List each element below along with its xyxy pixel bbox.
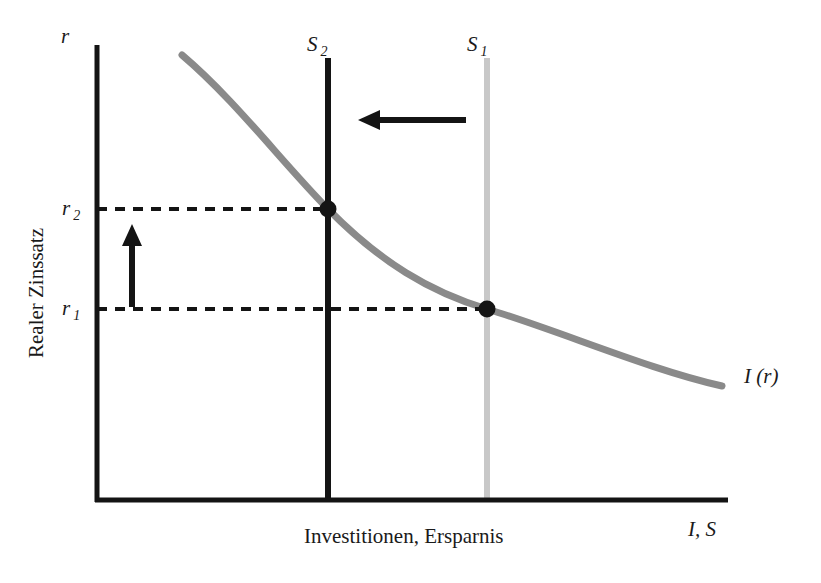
diagram-canvas [0,0,821,583]
tick-label-r2-subscript: 2 [73,208,80,223]
x-axis-title: Investitionen, Ersparnis [304,526,503,547]
savings-line-s1-subscript: 1 [481,44,488,59]
equilibrium-point-new [320,201,337,218]
savings-line-s2-subscript: 2 [321,44,328,59]
shift-arrow-left [358,110,466,130]
rate-increase-arrow-up [122,224,142,307]
x-axis-symbol: I, S [688,519,716,540]
tick-label-r1: r1 [62,298,77,319]
equilibrium-point-old [479,301,496,318]
y-axis-symbol: r [61,26,69,47]
savings-line-s1-label: S1 [467,34,485,55]
tick-label-r2: r2 [62,198,77,219]
economics-diagram: r Realer Zinssatz r2 r1 S2 S1 I (r) Inve… [0,0,821,583]
y-axis-title: Realer Zinssatz [26,228,47,358]
tick-label-r1-subscript: 1 [73,308,80,323]
investment-curve [182,55,722,386]
investment-curve-label: I (r) [744,366,778,387]
savings-line-s2-label: S2 [307,34,325,55]
